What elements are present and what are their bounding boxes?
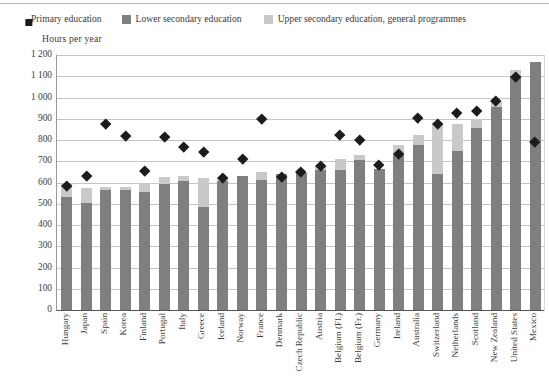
x-axis-category-label: Switzerland <box>432 313 441 357</box>
bar-group[interactable] <box>413 55 424 310</box>
square-marker-icon <box>264 15 273 24</box>
x-axis-category-label: Norway <box>236 313 245 343</box>
bar-group[interactable] <box>198 55 209 310</box>
bar-segment-lower-secondary[interactable] <box>491 107 502 310</box>
bar-segment-lower-secondary[interactable] <box>120 190 131 310</box>
bar-segment-upper-secondary[interactable] <box>81 188 92 203</box>
bar-segment-upper-secondary[interactable] <box>354 155 365 160</box>
x-axis-category-label: Germany <box>373 313 382 347</box>
bar-group[interactable] <box>354 55 365 310</box>
bar-segment-lower-secondary[interactable] <box>61 197 72 310</box>
bar-group[interactable] <box>100 55 111 310</box>
legend-label: Primary education <box>31 14 102 24</box>
bar-group[interactable] <box>315 55 326 310</box>
x-axis-category-label: Australia <box>412 313 421 347</box>
bar-group[interactable] <box>276 55 287 310</box>
legend-item-upper-secondary-education: Upper secondary education, general progr… <box>264 14 466 24</box>
bar-segment-lower-secondary[interactable] <box>276 174 287 310</box>
y-axis-tick-label: 1 200 <box>4 50 52 59</box>
bar-segment-lower-secondary[interactable] <box>296 173 307 310</box>
bar-group[interactable] <box>374 55 385 310</box>
y-axis-tick-label: 1 000 <box>4 93 52 102</box>
bar-segment-lower-secondary[interactable] <box>471 128 482 310</box>
x-axis-category-label: Netherlands <box>451 313 460 357</box>
x-axis-category-label: Belgium (Fl.) <box>334 313 343 363</box>
bar-segment-lower-secondary[interactable] <box>256 180 267 310</box>
bar-segment-lower-secondary[interactable] <box>217 181 228 310</box>
bar-segment-lower-secondary[interactable] <box>354 160 365 310</box>
y-axis-tick-label: 900 <box>4 114 52 123</box>
legend-item-primary-education: Primary education <box>26 14 102 24</box>
y-axis-tick-label: 400 <box>4 220 52 229</box>
bar-group[interactable] <box>452 55 463 310</box>
bar-segment-upper-secondary[interactable] <box>159 177 170 183</box>
bar-segment-upper-secondary[interactable] <box>100 187 111 190</box>
bar-segment-lower-secondary[interactable] <box>335 170 346 310</box>
legend-label: Upper secondary education, general progr… <box>278 14 466 24</box>
bar-group[interactable] <box>178 55 189 310</box>
bar-segment-upper-secondary[interactable] <box>432 123 443 174</box>
x-axis-category-label: Czech Republic <box>295 313 304 371</box>
bar-segment-upper-secondary[interactable] <box>178 176 189 181</box>
bar-segment-lower-secondary[interactable] <box>139 192 150 310</box>
bar-segment-upper-secondary[interactable] <box>139 183 150 193</box>
bar-group[interactable] <box>530 55 541 310</box>
x-axis-category-label: Mexico <box>529 313 538 341</box>
legend-item-lower-secondary-education: Lower secondary education <box>122 14 242 24</box>
x-axis-category-label: New Zealand <box>490 313 499 362</box>
x-axis-category-label: Korea <box>119 313 128 335</box>
bar-segment-lower-secondary[interactable] <box>413 145 424 310</box>
bar-group[interactable] <box>256 55 267 310</box>
header-divider <box>0 3 549 4</box>
bar-segment-upper-secondary[interactable] <box>452 124 463 151</box>
bar-segment-lower-secondary[interactable] <box>315 170 326 310</box>
bar-group[interactable] <box>81 55 92 310</box>
bar-segment-lower-secondary[interactable] <box>374 169 385 310</box>
bar-group[interactable] <box>335 55 346 310</box>
bar-segment-upper-secondary[interactable] <box>471 119 482 129</box>
bar-segment-lower-secondary[interactable] <box>510 76 521 310</box>
bar-segment-lower-secondary[interactable] <box>81 203 92 310</box>
bar-segment-lower-secondary[interactable] <box>393 154 404 310</box>
bar-segment-upper-secondary[interactable] <box>413 135 424 146</box>
x-axis-category-label: France <box>256 313 265 338</box>
bar-group[interactable] <box>432 55 443 310</box>
bar-group[interactable] <box>510 55 521 310</box>
plot-right-border <box>544 55 545 311</box>
y-axis-tick-label: 100 <box>4 284 52 293</box>
x-axis-category-label: Hungary <box>61 313 70 345</box>
x-axis-category-label: Scotland <box>471 313 480 345</box>
x-axis-category-label: Greece <box>197 313 206 339</box>
plot-area <box>56 55 545 311</box>
chart-legend: Primary education Lower secondary educat… <box>0 11 549 27</box>
y-axis-tick-labels: 01002003004005006007008009001 0001 1001 … <box>0 55 52 311</box>
bar-group[interactable] <box>237 55 248 310</box>
x-axis-category-label: Iceland <box>217 313 226 340</box>
bar-group[interactable] <box>139 55 150 310</box>
bar-group[interactable] <box>471 55 482 310</box>
bar-segment-lower-secondary[interactable] <box>178 181 189 310</box>
bar-group[interactable] <box>120 55 131 310</box>
x-axis-category-label: Denmark <box>275 313 284 347</box>
bar-segment-lower-secondary[interactable] <box>198 207 209 310</box>
bar-segment-upper-secondary[interactable] <box>335 159 346 170</box>
x-axis-category-label: United States <box>510 313 519 362</box>
bar-group[interactable] <box>159 55 170 310</box>
bar-segment-lower-secondary[interactable] <box>237 176 248 311</box>
bar-segment-lower-secondary[interactable] <box>530 62 541 310</box>
bar-segment-upper-secondary[interactable] <box>120 187 131 190</box>
y-axis-tick-label: 500 <box>4 199 52 208</box>
bar-segment-lower-secondary[interactable] <box>159 184 170 310</box>
bar-group[interactable] <box>296 55 307 310</box>
x-axis-category-label: Ireland <box>393 313 402 339</box>
bar-segment-lower-secondary[interactable] <box>432 174 443 310</box>
bar-group[interactable] <box>393 55 404 310</box>
bar-segment-lower-secondary[interactable] <box>100 190 111 310</box>
bar-segment-upper-secondary[interactable] <box>256 172 267 181</box>
x-axis-category-label: Japan <box>80 313 89 334</box>
bar-segment-upper-secondary[interactable] <box>198 178 209 207</box>
y-axis-tick-label: 0 <box>4 305 52 314</box>
bar-segment-lower-secondary[interactable] <box>452 151 463 310</box>
bar-group[interactable] <box>491 55 502 310</box>
x-axis-category-label: Italy <box>178 313 187 330</box>
